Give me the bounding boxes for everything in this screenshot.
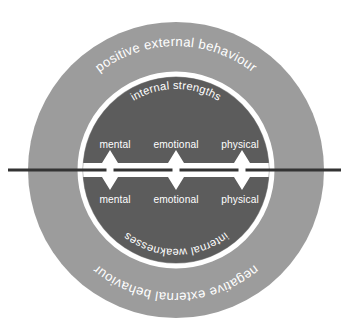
lower-cell-emotional: emotional (153, 194, 198, 205)
upper-cell-mental: mental (99, 139, 130, 150)
upper-cell-emotional: emotional (153, 139, 198, 150)
behaviour-model-diagram: positive external behaviour internal str… (0, 0, 349, 332)
lower-cell-mental: mental (99, 194, 130, 205)
upper-cell-physical: physical (221, 139, 259, 150)
lower-cell-physical: physical (221, 194, 259, 205)
diagram-canvas: positive external behaviour internal str… (0, 0, 349, 332)
